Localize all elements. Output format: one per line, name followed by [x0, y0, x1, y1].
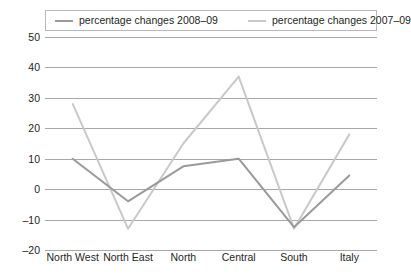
series-line-2008-09 — [73, 159, 350, 227]
legend-item-2007-09[interactable]: percentage changes 2007–09 — [248, 11, 411, 30]
x-axis-tick-label: Italy — [340, 252, 359, 263]
y-axis-tick-label: 40 — [28, 62, 40, 73]
x-axis-tick-label: South — [280, 252, 307, 263]
y-axis-tick-label: 30 — [28, 93, 40, 104]
x-axis-tick-label: Central — [222, 252, 256, 263]
legend-label-2008-09: percentage changes 2008–09 — [79, 15, 218, 26]
legend-label-2007-09: percentage changes 2007–09 — [272, 15, 411, 26]
series-line-2007-09 — [73, 77, 350, 229]
series-layer — [45, 37, 377, 250]
legend-item-2008-09[interactable]: percentage changes 2008–09 — [55, 11, 218, 30]
legend-swatch-2008-09 — [55, 20, 73, 22]
y-axis-tick-label: 0 — [34, 184, 40, 195]
plot-area: 50403020100–10–20 — [45, 37, 377, 250]
y-axis-tick-label: –10 — [22, 214, 40, 225]
chart-legend: percentage changes 2008–09 percentage ch… — [45, 10, 377, 31]
x-axis-tick-label: North East — [103, 252, 153, 263]
x-axis: North WestNorth EastNorthCentralSouthIta… — [45, 252, 377, 272]
x-axis-tick-label: North — [170, 252, 196, 263]
legend-swatch-2007-09 — [248, 20, 266, 22]
x-axis-tick-label: North West — [46, 252, 98, 263]
y-axis-tick-label: –20 — [22, 245, 40, 256]
y-axis-tick-label: 10 — [28, 153, 40, 164]
y-axis-tick-label: 20 — [28, 123, 40, 134]
y-axis-tick-label: 50 — [28, 32, 40, 43]
